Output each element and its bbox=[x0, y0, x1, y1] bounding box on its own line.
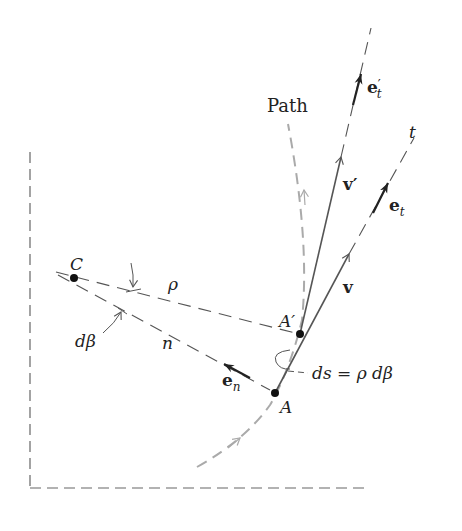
e-t-subscript: t bbox=[400, 205, 405, 219]
e-t-prime-subscript: t bbox=[377, 87, 382, 101]
d-beta-arrow-bottom bbox=[103, 312, 121, 333]
point-A-prime bbox=[296, 330, 304, 338]
path-direction-arrow-upper bbox=[304, 190, 305, 205]
e-n-base: e bbox=[222, 370, 233, 390]
tangent-at-A-prime bbox=[300, 28, 371, 334]
point-A bbox=[271, 389, 279, 397]
ds-arc bbox=[275, 350, 290, 369]
e-n-subscript: n bbox=[233, 380, 241, 394]
d-beta-tick-bottom bbox=[118, 308, 127, 314]
v-label: v bbox=[342, 277, 354, 297]
e-t-label: et bbox=[389, 195, 405, 219]
center-of-curvature-C bbox=[70, 274, 78, 282]
point-C-label: C bbox=[70, 254, 83, 274]
e-t-prime-unit-vector bbox=[353, 74, 361, 105]
curvilinear-motion-diagram: Path t C ρ dβ n A′ A ds = ρ dβ v v′ et e… bbox=[0, 0, 462, 531]
e-t-prime-label: e′t bbox=[367, 77, 382, 101]
n-axis-label: n bbox=[162, 333, 173, 353]
reference-frame bbox=[30, 152, 368, 488]
point-A-label: A bbox=[278, 397, 292, 417]
point-A-prime-label: A′ bbox=[277, 311, 295, 331]
d-beta-arrow-top bbox=[131, 263, 133, 287]
e-n-label: en bbox=[222, 370, 241, 394]
path-direction-arrow-lower bbox=[228, 438, 240, 448]
v-prime-label: v′ bbox=[342, 174, 358, 194]
e-t-unit-vector bbox=[373, 183, 388, 213]
ds-leader-line bbox=[288, 371, 308, 373]
path-label: Path bbox=[267, 95, 308, 116]
d-beta-label: dβ bbox=[75, 331, 96, 351]
ds-equation-label: ds = ρ dβ bbox=[312, 363, 393, 383]
rho-label: ρ bbox=[167, 274, 178, 294]
e-t-base: e bbox=[389, 195, 400, 215]
t-axis-label: t bbox=[409, 122, 416, 142]
